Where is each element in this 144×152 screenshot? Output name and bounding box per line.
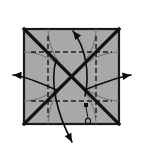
origami-diagram-figure: [0, 0, 144, 152]
reference-point-square: [84, 103, 88, 107]
origami-diagram-canvas: [0, 0, 144, 152]
